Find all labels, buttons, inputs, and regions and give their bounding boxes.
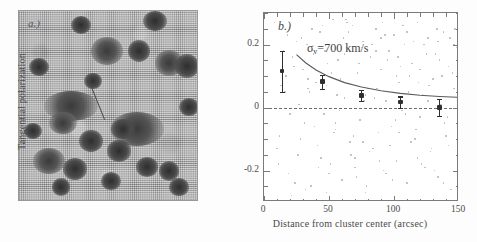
y-minor-tick [264,13,268,14]
panel-a-label: a.) [28,17,40,29]
star-point [71,16,91,34]
x-minor-tick-top [420,13,421,17]
y-tick-label: 0 [233,101,259,111]
star-point [175,54,198,78]
y-minor-tick-right [456,186,459,187]
y-axis-label: Tangential polarization [16,27,27,177]
y-tick-label: -0.2 [233,164,259,174]
y-minor-tick-right [456,92,459,93]
panel-b-plot: b.) σv=700 km/s [263,12,458,201]
x-major-tick-top [264,13,265,19]
y-minor-tick [264,76,268,77]
x-minor-tick-top [433,13,434,17]
star-point [84,73,102,90]
y-major-tick-right [453,171,458,172]
x-major-tick [329,196,330,201]
data-point-marker [359,93,363,97]
y-major-tick-right [453,45,458,46]
x-major-tick-top [394,13,395,19]
y-minor-tick [264,29,268,30]
y-minor-tick-right [456,139,459,140]
y-major-tick [264,45,270,46]
x-axis-label: Distance from cluster center (arcsec) [236,218,464,229]
star-point [128,40,150,61]
galaxy-blob [91,37,123,64]
y-minor-tick [264,155,268,156]
y-minor-tick-right [456,76,459,77]
x-minor-tick [420,199,421,202]
y-major-tick-right [453,108,458,109]
error-bar-cap-lower [280,92,285,93]
y-minor-tick [264,123,268,124]
x-minor-tick [446,199,447,202]
image-frame: a.) [18,10,198,201]
data-point-marker [320,79,324,83]
x-tick-label: 0 [247,204,279,214]
y-minor-tick [264,139,268,140]
y-minor-tick-right [456,60,459,61]
error-bar-cap-lower [398,108,403,109]
star-point [29,58,49,76]
y-minor-tick [264,60,268,61]
panel-a-astronomical-image: a.) [18,10,198,201]
x-major-tick [394,196,395,201]
y-minor-tick [264,186,268,187]
plot-frame: b.) σv=700 km/s [263,12,458,201]
error-bar-cap-upper [398,96,403,97]
y-major-tick [264,171,270,172]
y-minor-tick [264,92,268,93]
x-tick-label: 50 [312,204,344,214]
x-minor-tick-top [303,13,304,17]
x-minor-tick-top [407,13,408,17]
error-bar-cap-lower [437,116,442,117]
star-point [79,130,102,151]
star-point [111,119,134,140]
x-minor-tick [407,199,408,202]
y-minor-tick-right [456,123,459,124]
x-minor-tick [433,199,434,202]
sigma-velocity-annotation: σv=700 km/s [307,41,369,56]
star-point [169,178,189,196]
star-point [52,178,71,196]
x-major-tick [264,196,265,201]
y-minor-tick-right [456,13,459,14]
x-minor-tick-top [446,13,447,17]
y-minor-tick-right [456,155,459,156]
panel-b-label: b.) [278,19,291,34]
star-point [107,140,132,161]
fit-curve-path [297,55,459,98]
sigma-value-text: =700 km/s [317,41,368,55]
x-minor-tick-top [381,13,382,17]
star-point [143,11,166,31]
error-bar-cap-upper [280,51,285,52]
x-minor-tick [368,199,369,202]
error-bar-cap-upper [320,75,325,76]
x-minor-tick [381,199,382,202]
galaxy-measurement-point [457,56,458,58]
star-point [179,98,198,116]
star-point [101,172,121,190]
x-minor-tick [290,199,291,202]
error-bar-cap-upper [437,99,442,100]
x-minor-tick-top [368,13,369,17]
x-minor-tick-top [316,13,317,17]
x-minor-tick [342,199,343,202]
error-bar-cap-upper [359,90,364,91]
data-point-marker [437,105,441,109]
x-minor-tick-top [355,13,356,17]
x-minor-tick [355,199,356,202]
x-minor-tick-top [290,13,291,17]
error-bar-cap-lower [359,101,364,102]
x-minor-tick-top [277,13,278,17]
x-major-tick-top [329,13,330,19]
x-minor-tick [316,199,317,202]
galaxy-blob [49,112,77,135]
y-minor-tick-right [456,29,459,30]
x-tick-label: 150 [442,204,474,214]
star-point [63,158,88,179]
x-minor-tick-top [342,13,343,17]
star-point [136,157,158,177]
error-bar-cap-lower [320,89,325,90]
x-tick-label: 100 [377,204,409,214]
y-major-tick [264,108,270,109]
